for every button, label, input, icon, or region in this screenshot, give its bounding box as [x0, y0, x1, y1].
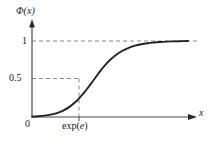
- y-tick-label-half: 0.5: [9, 73, 22, 83]
- x-axis-arrowhead: [188, 114, 197, 120]
- x-axis-label: x: [199, 108, 203, 118]
- x-tick-label-expe: exp(e): [62, 121, 88, 131]
- expe-suffix: ): [84, 120, 87, 131]
- origin-label-zero: 0: [25, 119, 30, 129]
- y-tick-label-one: 1: [22, 36, 27, 46]
- expe-prefix: exp(: [62, 120, 80, 131]
- y-axis-arrowhead: [29, 19, 35, 28]
- sigmoid-cdf-figure: Φ(x) x 1 0.5 0 exp(e): [0, 0, 211, 148]
- y-axis-label: Φ(x): [16, 6, 35, 16]
- plot-canvas: [0, 0, 211, 148]
